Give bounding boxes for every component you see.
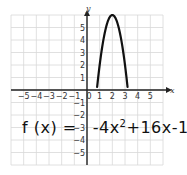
function-equation: f (x) =-4x2+16x-10 — [22, 118, 187, 137]
svg-text:−5: −5 — [73, 149, 85, 158]
svg-text:5: 5 — [148, 92, 153, 101]
svg-text:−4: −4 — [73, 136, 85, 145]
equation-lhs: f (x) = — [22, 118, 77, 137]
svg-text:4: 4 — [80, 36, 85, 45]
svg-text:1: 1 — [80, 74, 85, 83]
equation-rhs-a: -4x — [93, 118, 120, 137]
svg-text:5: 5 — [80, 24, 85, 33]
x-axis-label: x — [170, 86, 175, 95]
svg-text:2: 2 — [80, 61, 85, 70]
svg-text:1: 1 — [97, 92, 102, 101]
svg-text:−1: −1 — [73, 99, 85, 108]
svg-text:2: 2 — [110, 92, 115, 101]
svg-text:−4: −4 — [30, 92, 42, 101]
svg-text:4: 4 — [135, 92, 140, 101]
y-axis-label: y — [85, 4, 91, 13]
axes — [11, 10, 172, 165]
svg-text:3: 3 — [80, 49, 85, 58]
coordinate-plane: −5−4−3−2−101234554321−1−2−3−4−5 y x — [0, 0, 187, 175]
svg-text:3: 3 — [122, 92, 127, 101]
equation-rhs-b: +16x-10 — [126, 118, 187, 137]
svg-text:−2: −2 — [56, 92, 68, 101]
svg-text:−5: −5 — [18, 92, 30, 101]
svg-text:0: 0 — [86, 92, 91, 101]
svg-text:−3: −3 — [43, 92, 55, 101]
